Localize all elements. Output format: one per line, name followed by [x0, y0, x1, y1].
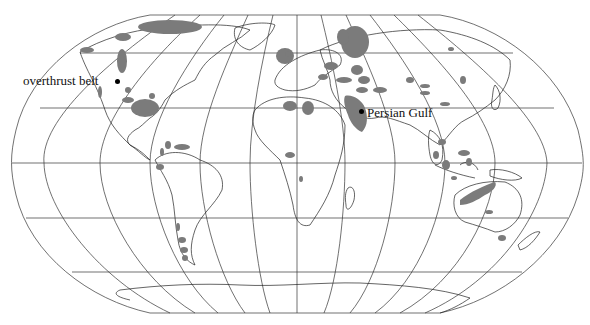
coastlines — [80, 23, 540, 313]
persian-gulf-label: Persian Gulf — [367, 106, 432, 119]
map-outline — [12, 15, 584, 313]
oil-regions — [80, 20, 506, 261]
persian-gulf-marker — [359, 109, 364, 114]
overthrust-belt-marker — [115, 79, 120, 84]
overthrust-belt-label: overthrust belt — [23, 74, 98, 87]
world-map — [0, 0, 590, 325]
